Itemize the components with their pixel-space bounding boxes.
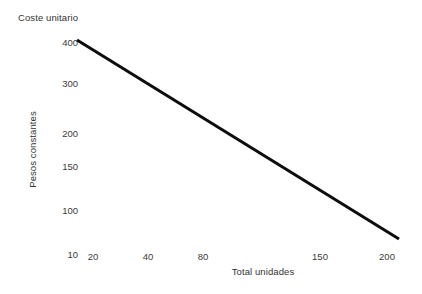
unit-cost-chart: Coste unitario Pesos constantes 40030020… xyxy=(0,0,422,294)
x-axis-title: Total unidades xyxy=(213,266,313,277)
x-tick-label: 40 xyxy=(128,251,168,262)
cost-line-series xyxy=(77,40,399,239)
x-tick-label: 150 xyxy=(300,251,340,262)
x-tick-label: 80 xyxy=(183,251,223,262)
plot-area xyxy=(0,0,422,294)
x-tick-label: 200 xyxy=(367,251,407,262)
x-tick-label: 20 xyxy=(73,251,113,262)
